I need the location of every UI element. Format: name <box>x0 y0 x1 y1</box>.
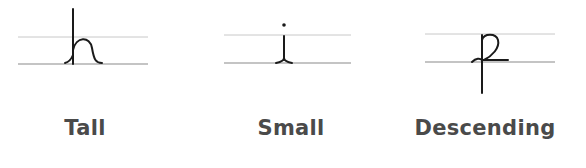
letter-h-diagram <box>0 0 196 110</box>
panel-descending: Descending <box>390 0 586 168</box>
panel-tall: Tall <box>0 0 196 168</box>
letter-h-arch <box>73 39 102 63</box>
label-descending: Descending <box>390 116 580 140</box>
panel-small: Small <box>196 0 390 168</box>
letter-i-dot <box>282 23 286 27</box>
letter-p-bowl <box>482 35 498 60</box>
letter-p-diagram <box>390 0 586 110</box>
label-small: Small <box>196 116 386 140</box>
letter-i-foot <box>276 58 292 63</box>
letter-h-foot <box>65 55 73 63</box>
letter-i-diagram <box>196 0 390 110</box>
label-tall: Tall <box>10 116 160 140</box>
